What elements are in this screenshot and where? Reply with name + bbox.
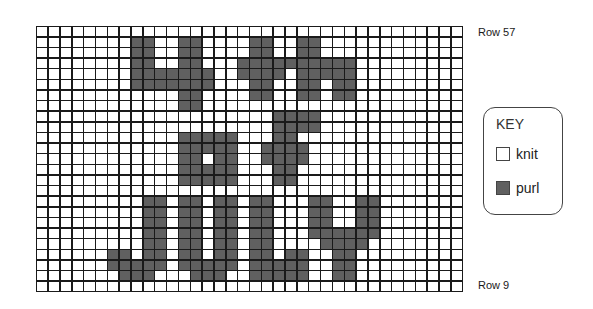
- purl-cell: [179, 165, 189, 174]
- knit-cell: [61, 282, 71, 291]
- knit-cell: [404, 91, 414, 100]
- knit-cell: [238, 282, 248, 291]
- knit-cell: [321, 123, 331, 132]
- key-item-knit: knit: [496, 146, 538, 162]
- key-label-purl: purl: [516, 180, 539, 196]
- knit-cell: [37, 59, 47, 68]
- purl-cell: [357, 218, 367, 227]
- knit-cell: [49, 133, 59, 142]
- knit-cell: [274, 282, 284, 291]
- knit-cell: [250, 165, 260, 174]
- knit-cell: [155, 112, 165, 121]
- knit-cell: [215, 101, 225, 110]
- knit-cell: [369, 112, 379, 121]
- knit-cell: [238, 271, 248, 280]
- knit-cell: [215, 112, 225, 121]
- purl-cell: [215, 261, 225, 270]
- purl-cell: [298, 271, 308, 280]
- knit-cell: [274, 250, 284, 259]
- knit-cell: [238, 144, 248, 153]
- knit-cell: [274, 229, 284, 238]
- knit-cell: [84, 48, 94, 57]
- knit-cell: [416, 123, 426, 132]
- knit-cell: [262, 165, 272, 174]
- knit-cell: [392, 101, 402, 110]
- knit-cell: [404, 27, 414, 36]
- purl-cell: [203, 261, 213, 270]
- knit-cell: [84, 250, 94, 259]
- knit-cell: [84, 123, 94, 132]
- knit-cell: [274, 197, 284, 206]
- knit-cell: [416, 186, 426, 195]
- knit-cell: [84, 165, 94, 174]
- knit-cell: [452, 186, 462, 195]
- knit-cell: [357, 250, 367, 259]
- purl-cell: [191, 229, 201, 238]
- knit-cell: [416, 59, 426, 68]
- knit-cell: [49, 144, 59, 153]
- knit-cell: [84, 101, 94, 110]
- purl-cell: [191, 271, 201, 280]
- knit-cell: [84, 176, 94, 185]
- knit-cell: [61, 27, 71, 36]
- knit-cell: [428, 112, 438, 121]
- purl-cell: [286, 59, 296, 68]
- knit-cell: [37, 197, 47, 206]
- knit-cell: [96, 282, 106, 291]
- knit-cell: [37, 144, 47, 153]
- knit-cell: [250, 282, 260, 291]
- purl-cell: [227, 165, 237, 174]
- knit-cell: [120, 208, 130, 217]
- knit-cell: [227, 69, 237, 78]
- purl-cell: [321, 69, 331, 78]
- knit-cell: [381, 112, 391, 121]
- knit-cell: [108, 239, 118, 248]
- purl-cell: [167, 69, 177, 78]
- knit-cell: [262, 133, 272, 142]
- knit-cell: [61, 133, 71, 142]
- purl-cell: [144, 239, 154, 248]
- purl-cell: [262, 250, 272, 259]
- purl-cell: [215, 208, 225, 217]
- knit-cell: [215, 123, 225, 132]
- knit-cell: [108, 271, 118, 280]
- knit-cell: [61, 101, 71, 110]
- knit-cell: [132, 101, 142, 110]
- knit-cell: [61, 250, 71, 259]
- knit-cell: [73, 165, 83, 174]
- knit-cell: [144, 27, 154, 36]
- knit-cell: [345, 165, 355, 174]
- knit-cell: [96, 27, 106, 36]
- purl-cell: [108, 250, 118, 259]
- knit-cell: [238, 250, 248, 259]
- knit-cell: [73, 91, 83, 100]
- knit-cell: [404, 38, 414, 47]
- purl-cell: [298, 69, 308, 78]
- purl-cell: [274, 261, 284, 270]
- knit-cell: [298, 101, 308, 110]
- knit-cell: [440, 91, 450, 100]
- knit-cell: [452, 27, 462, 36]
- knit-cell: [155, 48, 165, 57]
- knit-cell: [321, 133, 331, 142]
- knit-cell: [357, 38, 367, 47]
- knit-cell: [120, 123, 130, 132]
- knit-cell: [404, 229, 414, 238]
- chart-key: KEY knit purl: [483, 107, 563, 215]
- knit-cell: [392, 261, 402, 270]
- purl-cell: [215, 271, 225, 280]
- purl-cell: [345, 59, 355, 68]
- purl-cell: [132, 271, 142, 280]
- knit-cell: [440, 80, 450, 89]
- knit-cell: [215, 27, 225, 36]
- knit-cell: [298, 176, 308, 185]
- knit-cell: [369, 123, 379, 132]
- knit-cell: [404, 218, 414, 227]
- knit-cell: [37, 123, 47, 132]
- purl-cell: [179, 48, 189, 57]
- knit-cell: [227, 27, 237, 36]
- purl-cell: [215, 229, 225, 238]
- knit-cell: [108, 27, 118, 36]
- purl-cell: [227, 133, 237, 142]
- knit-cell: [238, 154, 248, 163]
